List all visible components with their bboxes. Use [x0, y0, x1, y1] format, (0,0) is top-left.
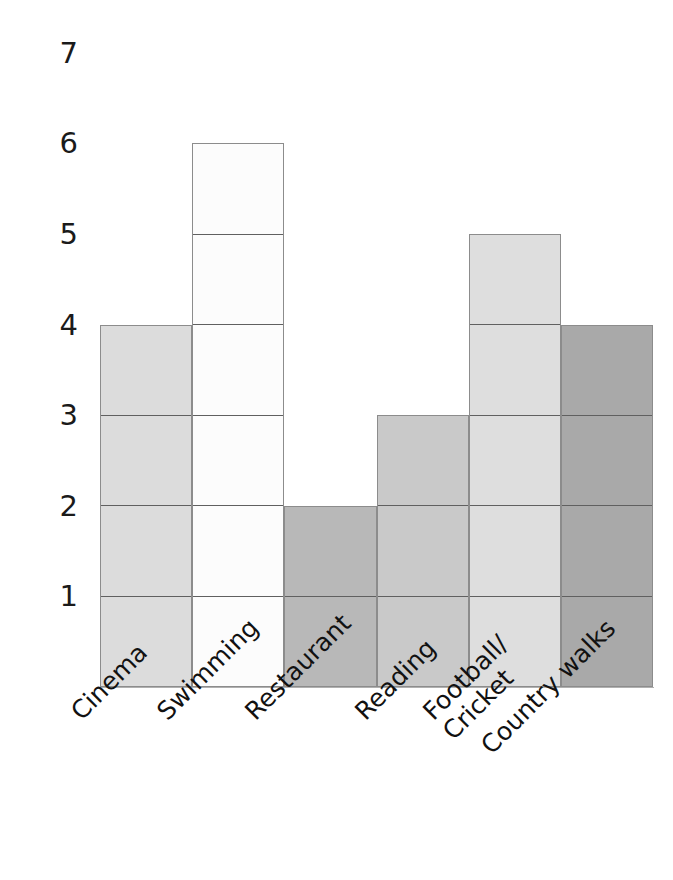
bar-unit-segment [193, 235, 283, 325]
y-tick-label-7: 7 [60, 38, 78, 67]
bar-unit-segment [470, 506, 560, 596]
bar-unit-segment [562, 416, 652, 506]
bar-swimming[interactable] [192, 143, 284, 687]
bar-unit-segment [378, 416, 468, 506]
bar-unit-segment [470, 235, 560, 325]
bar-unit-segment [285, 507, 375, 597]
bar-unit-segment [193, 325, 283, 415]
bar-unit-segment [193, 416, 283, 506]
bar-unit-segment [378, 506, 468, 596]
bar-unit-segment [101, 416, 191, 506]
bar-unit-segment [193, 506, 283, 596]
bar-chart: 7654321 CinemaSwimmingRestaurantReadingF… [0, 0, 673, 880]
bar-unit-segment [562, 326, 652, 416]
y-tick-label-3: 3 [60, 401, 78, 430]
plot-area [100, 50, 653, 687]
y-tick-label-1: 1 [60, 582, 78, 611]
bar-unit-segment [101, 506, 191, 596]
bar-unit-segment [193, 144, 283, 234]
x-axis: CinemaSwimmingRestaurantReadingFootball/… [0, 688, 673, 880]
bar-unit-segment [470, 325, 560, 415]
y-tick-label-6: 6 [60, 129, 78, 158]
y-tick-label-5: 5 [60, 220, 78, 249]
bar-football-cricket[interactable] [469, 234, 561, 687]
y-tick-label-2: 2 [60, 491, 78, 520]
bar-unit-segment [470, 416, 560, 506]
bar-cinema[interactable] [100, 325, 192, 687]
y-tick-label-4: 4 [60, 310, 78, 339]
bar-unit-segment [101, 326, 191, 416]
bar-unit-segment [562, 506, 652, 596]
